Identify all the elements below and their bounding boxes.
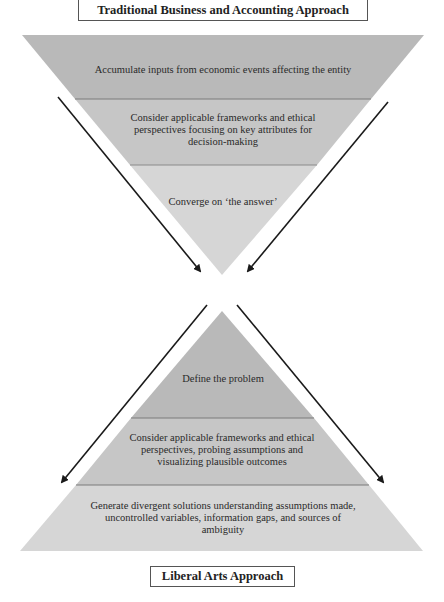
bottom-band-3-label: Generate divergent solutions understandi… (84, 496, 362, 540)
bottom-band-2-label: Consider applicable frameworks and ethic… (124, 428, 320, 472)
top-band-2-label: Consider applicable frameworks and ethic… (120, 108, 326, 152)
top-band-1-label: Accumulate inputs from economic events a… (60, 58, 386, 82)
top-band-3-label: Converge on ‘the answer’ (150, 194, 296, 210)
bottom-approach-title: Liberal Arts Approach (150, 566, 295, 587)
bottom-band-1-label: Define the problem (162, 371, 284, 387)
